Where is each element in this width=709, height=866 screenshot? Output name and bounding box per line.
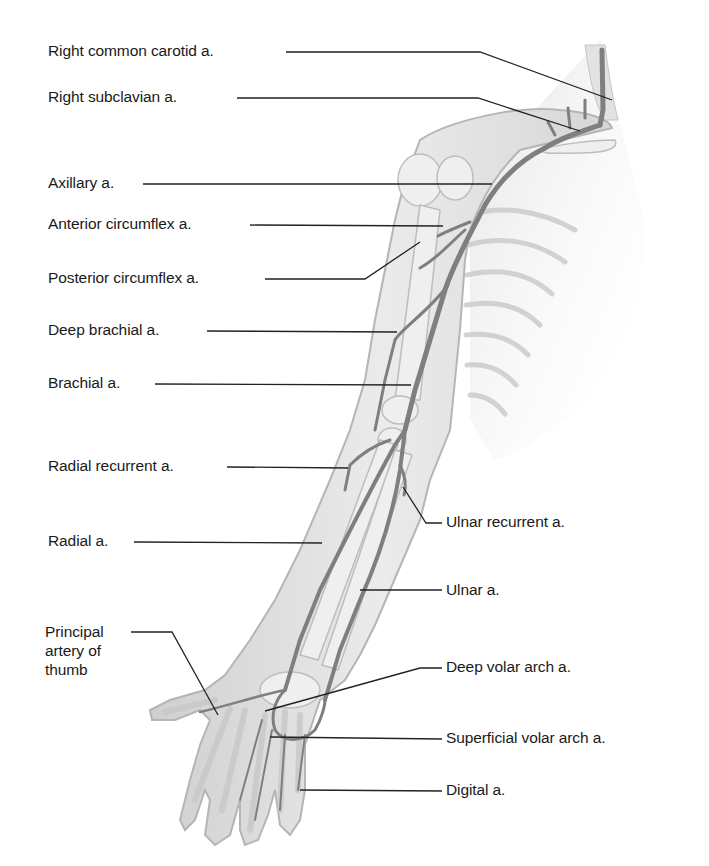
label-digital: Digital a.	[446, 781, 505, 799]
label-axillary: Axillary a.	[48, 174, 114, 192]
label-superficial-volar-arch: Superficial volar arch a.	[446, 729, 605, 747]
label-radial: Radial a.	[48, 532, 108, 550]
leader-radial	[134, 542, 322, 543]
leader-deep-brachial	[207, 331, 397, 332]
arm-arteries-diagram: Right common carotid a. Right subclavian…	[0, 0, 709, 866]
label-right-subclavian: Right subclavian a.	[48, 88, 177, 106]
label-deep-volar-arch: Deep volar arch a.	[446, 658, 571, 676]
label-posterior-circumflex: Posterior circumflex a.	[48, 269, 199, 287]
label-radial-recurrent: Radial recurrent a.	[48, 457, 174, 475]
label-ulnar-recurrent: Ulnar recurrent a.	[446, 513, 565, 531]
label-principal-artery-thumb: Principal artery of thumb	[45, 622, 130, 679]
label-brachial: Brachial a.	[48, 374, 120, 392]
leader-digital	[300, 790, 442, 791]
label-anterior-circumflex: Anterior circumflex a.	[48, 215, 191, 233]
label-deep-brachial: Deep brachial a.	[48, 321, 159, 339]
label-ulnar: Ulnar a.	[446, 581, 499, 599]
label-right-common-carotid: Right common carotid a.	[48, 42, 214, 60]
leader-radial-recurrent	[227, 467, 348, 468]
